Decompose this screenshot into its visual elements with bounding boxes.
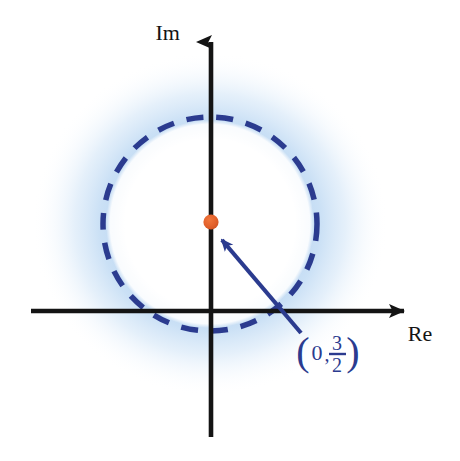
point-label-real-part: 0 bbox=[312, 340, 323, 365]
real-axis-label: Re bbox=[408, 321, 432, 346]
point-label-numerator: 3 bbox=[332, 332, 342, 354]
point-label-denominator: 2 bbox=[332, 354, 342, 376]
figure-canvas: Im Re ( 0 , 3 2 ) bbox=[0, 0, 460, 461]
point-label-open-paren: ( bbox=[296, 329, 309, 374]
marked-point-dot bbox=[203, 214, 218, 229]
point-label-separator: , bbox=[325, 343, 330, 365]
imaginary-axis-label: Im bbox=[156, 20, 180, 45]
complex-plane-figure: Im Re ( 0 , 3 2 ) bbox=[0, 0, 460, 461]
point-label-close-paren: ) bbox=[346, 329, 359, 374]
